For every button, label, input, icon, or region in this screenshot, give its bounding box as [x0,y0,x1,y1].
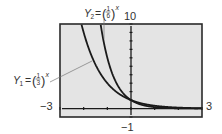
svg-text:=: = [95,7,101,19]
y1-subscript: 1 [20,80,24,87]
y2-exponent: x [115,4,120,11]
y1-equation-label: Y 1 = ( 1 3 ) x [13,71,50,88]
y2-numerator: 1 [107,5,111,12]
y1-denominator: 3 [37,79,41,86]
y1-numerator: 1 [37,72,41,79]
xmin-label: −3 [40,100,53,112]
y2-denominator: 6 [107,12,111,19]
y2-equation-label: Y 2 = ( 1 6 ) x [84,4,120,21]
graph-figure: −3 3 10 −1 Y 2 = ( 1 6 ) x Y 1 = ( 1 3 )… [0,0,222,134]
y1-exponent: x [45,71,50,78]
ymin-label: −1 [121,121,134,133]
xmax-label: 3 [206,100,212,112]
y2-subscript: 2 [91,13,95,20]
ymax-label: 10 [124,10,136,22]
svg-text:=: = [25,74,31,86]
